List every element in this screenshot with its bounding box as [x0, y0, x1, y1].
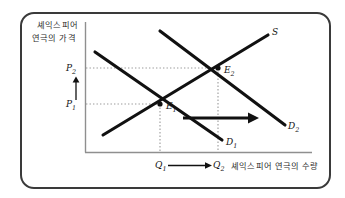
x-axis-label: 셰익스피어 연극의 수량 [231, 161, 319, 171]
supply-demand-diagram: 셰익스피어 연극의 가격 셰익스피어 연극의 수량 P2 P1 Q1 Q2 S … [0, 0, 345, 198]
y-axis-label-line1: 셰익스피어 [37, 20, 78, 30]
equilibrium-point-e1 [157, 101, 162, 106]
supply-curve-label: S [272, 27, 278, 37]
figure-container: 셰익스피어 연극의 가격 셰익스피어 연극의 수량 P2 P1 Q1 Q2 S … [0, 0, 345, 198]
equilibrium-point-e2 [215, 65, 220, 70]
y-axis-label-line2: 연극의 가격 [32, 33, 76, 43]
